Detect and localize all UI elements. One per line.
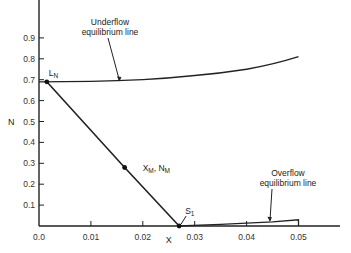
y-tick-label: 0.1 [23,200,35,210]
point-label: XM, NM [143,163,170,174]
y-axis-label: N [8,117,15,127]
x-tick-label: 0.05 [290,232,307,242]
y-tick-label: 0.4 [23,137,35,147]
x-tick-label: 0.02 [135,232,152,242]
y-tick-label: 0.7 [23,75,35,85]
annotation-text: Overflow [271,168,305,178]
y-tick-label: 0.2 [23,179,35,189]
y-tick-label: 0.5 [23,117,35,127]
annotation-arrow [108,38,119,81]
annotation-text: equilibrium line [82,27,139,37]
chart: 0.10.20.30.40.50.60.70.80.90.00.010.020.… [0,0,351,253]
axes: 0.10.20.30.40.50.60.70.80.90.00.010.020.… [23,0,340,242]
x-axis-label: X [166,235,172,245]
x-tick-label: 0.01 [83,232,100,242]
point-marker [177,224,182,229]
series-layer [39,57,299,226]
underflow-equilibrium-line [39,57,299,82]
y-tick-label: 0.3 [23,158,35,168]
point-marker [122,165,127,170]
point-marker [44,79,49,84]
x-tick-label: 0.03 [186,232,203,242]
point-label: S1 [185,206,195,217]
arrow-head [267,217,272,222]
annotation-text: equilibrium line [260,178,317,188]
point-label: LN [49,68,59,79]
x-tick-label: 0.04 [238,232,255,242]
y-tick-label: 0.9 [23,33,35,43]
overflow-equilibrium-line [179,220,298,226]
operating-line [47,82,179,226]
x-tick-label: 0.0 [33,232,45,242]
annotation-arrow [270,189,272,221]
point-marks: LNXM, NMS1 [44,68,194,229]
y-tick-label: 0.6 [23,96,35,106]
s1-arrow [181,216,186,224]
annotation-text: Underflow [91,17,130,27]
annotations: Underflowequilibrium lineOverflowequilib… [82,17,317,222]
y-tick-label: 0.8 [23,54,35,64]
